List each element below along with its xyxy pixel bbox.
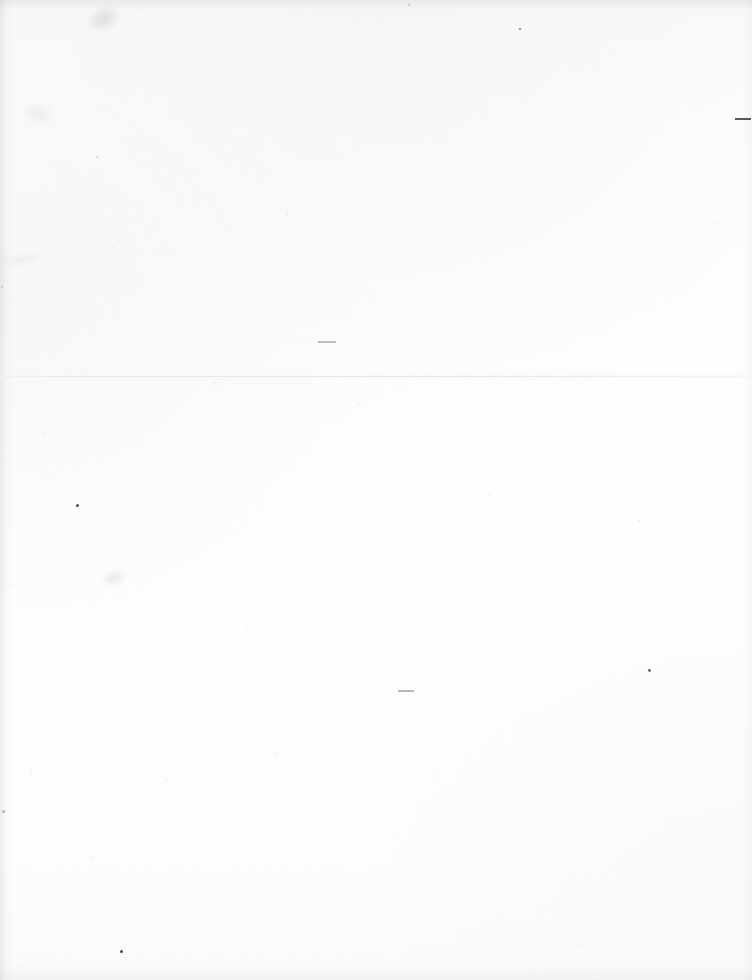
scanned-page: · · · · ·· · ··· · ·· ·· ·· · ·· · · ···… — [0, 0, 752, 980]
scan-edge-left — [0, 0, 14, 980]
scan-edge-bottom — [0, 964, 752, 980]
page-text-content — [64, 60, 688, 920]
scan-edge-right — [742, 0, 752, 980]
scan-edge-top — [0, 0, 752, 10]
